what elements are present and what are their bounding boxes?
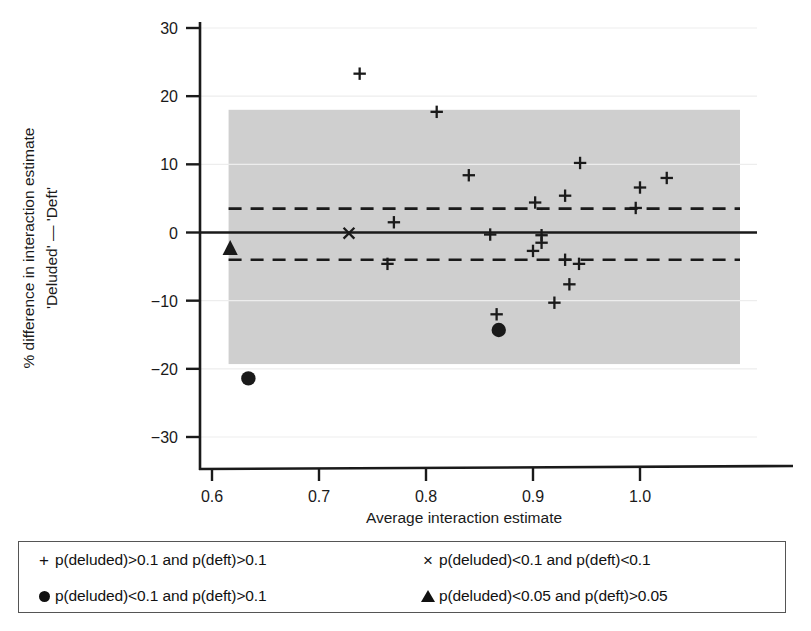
legend-label-0: p(deluded)>0.1 and p(deft)>0.1 xyxy=(55,551,267,569)
shaded-agreement-region xyxy=(229,110,740,364)
data-point-circle-2-1 xyxy=(492,323,506,337)
legend-label-2: p(deluded)<0.1 and p(deft)>0.1 xyxy=(55,587,267,605)
x-tick-label-0: 0.6 xyxy=(201,488,223,505)
agreement-band-layer xyxy=(229,110,740,364)
circle-icon xyxy=(33,591,55,602)
y-tick-label-2: 10 xyxy=(160,156,178,173)
x-tick-label-4: 1.0 xyxy=(629,488,651,505)
y-tick-label-4: −10 xyxy=(151,293,178,310)
y-tick-label-5: −20 xyxy=(151,361,178,378)
figure-root: 3020100−10−20−300.60.70.80.91.0 Average … xyxy=(0,0,811,631)
x-tick-label-1: 0.7 xyxy=(308,488,330,505)
plus-icon: + xyxy=(33,552,55,569)
scatter-plot-svg: 3020100−10−20−300.60.70.80.91.0 Average … xyxy=(0,0,811,631)
y-axis-label-line2: 'Deluded' — 'Deft' xyxy=(43,187,60,309)
y-tick-label-1: 20 xyxy=(160,88,178,105)
legend: + p(deluded)>0.1 and p(deft)>0.1 × p(del… xyxy=(18,541,786,613)
legend-label-3: p(deluded)<0.05 and p(deft)>0.05 xyxy=(439,587,668,605)
x-axis-label: Average interaction estimate xyxy=(366,509,562,526)
legend-item-0: + p(deluded)>0.1 and p(deft)>0.1 xyxy=(19,542,403,578)
data-point-plus-0-0 xyxy=(353,67,365,79)
y-axis-label-line1: % difference in interaction estimate xyxy=(20,128,37,369)
x-tick-label-2: 0.8 xyxy=(415,488,437,505)
x-axis-line xyxy=(199,466,793,469)
x-tick-label-3: 0.9 xyxy=(522,488,544,505)
y-tick-label-6: −30 xyxy=(151,429,178,446)
legend-item-3: p(deluded)<0.05 and p(deft)>0.05 xyxy=(403,578,787,614)
y-tick-label-0: 30 xyxy=(160,20,178,37)
legend-label-1: p(deluded)<0.1 and p(deft)<0.1 xyxy=(439,551,651,569)
data-point-circle-2-0 xyxy=(241,371,255,385)
triangle-icon xyxy=(417,590,439,602)
legend-item-1: × p(deluded)<0.1 and p(deft)<0.1 xyxy=(403,542,787,578)
y-tick-label-3: 0 xyxy=(169,225,178,242)
cross-icon: × xyxy=(417,552,439,569)
legend-item-2: p(deluded)<0.1 and p(deft)>0.1 xyxy=(19,578,403,614)
